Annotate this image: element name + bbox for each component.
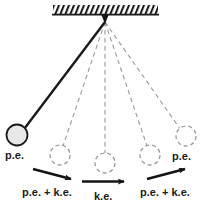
velocity-arrow-left (33, 169, 71, 179)
ghost-rods (63, 22, 180, 153)
pendulum-diagram: p.e. p.e. p.e. + k.e. k.e. p.e. + k.e. (0, 0, 210, 205)
label-pe-right: p.e. (172, 151, 191, 162)
rod-dashed-4 (105, 22, 147, 146)
velocity-arrows (33, 169, 185, 182)
pivot-wedge-icon (102, 15, 109, 24)
label-pe-left: p.e. (5, 150, 24, 161)
label-pe-ke-left: p.e. + k.e. (22, 187, 72, 198)
bob-solid-1 (7, 125, 28, 146)
ceiling-support (52, 5, 159, 15)
pendulum-figure-canvas (0, 0, 210, 205)
label-ke-center: k.e. (94, 191, 112, 202)
bob-ghost-2 (50, 145, 70, 165)
label-pe-ke-right: p.e. + k.e. (140, 187, 190, 198)
rod-dashed-5 (105, 22, 180, 128)
pivot-point (102, 15, 109, 24)
ceiling-hatching (53, 5, 158, 14)
bob-ghost-5 (176, 126, 196, 146)
velocity-arrow-right (147, 169, 185, 179)
active-pendulum (7, 22, 106, 146)
bob-ghost-3 (95, 153, 115, 173)
rod-dashed-2 (63, 22, 105, 146)
rod-solid-1 (25, 22, 106, 129)
bob-ghost-4 (140, 145, 160, 165)
